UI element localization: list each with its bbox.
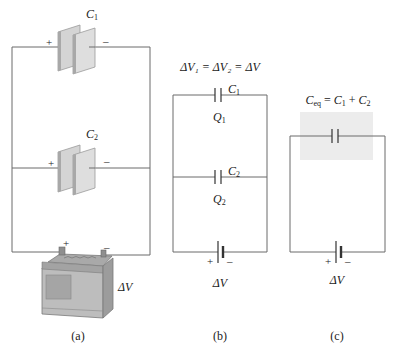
battery-plus-sign-a: +: [63, 237, 69, 249]
c1-minus-sign-a: –: [103, 35, 109, 47]
battery-plus-sign-c: +: [325, 255, 331, 267]
delta-v-label-a: ΔV: [118, 280, 132, 295]
voltage-equation-b: ΔV₁ = ΔV₂ = ΔV: [180, 60, 260, 75]
battery-minus-sign-b: –: [227, 255, 233, 267]
delta-v-label-c: ΔV: [330, 273, 344, 288]
c2-label-b: C2: [228, 164, 240, 179]
c2-minus-sign-a: –: [104, 155, 110, 167]
caption-b: (b): [213, 329, 227, 344]
c2-plus-sign-a: +: [48, 157, 54, 169]
q2-label-b: Q2: [213, 192, 226, 207]
circuit-diagram: [0, 0, 396, 352]
c1-label-b: C1: [228, 82, 240, 97]
capacitor-c2-plates: [58, 145, 95, 195]
delta-v-label-b: ΔV: [213, 276, 227, 291]
battery-plus-sign-b: +: [207, 255, 213, 267]
battery-minus-sign-c: –: [345, 255, 351, 267]
c1-label-a: C1: [86, 7, 98, 22]
q1-label-b: Q1: [213, 110, 226, 125]
c1-plus-sign-a: +: [46, 36, 52, 48]
car-battery-icon: [42, 247, 113, 318]
capacitor-c1-plates: [58, 25, 95, 74]
battery-minus-sign-a: –: [104, 241, 110, 253]
panel-a-circuit: [12, 47, 150, 255]
caption-c: (c): [330, 329, 343, 344]
c2-label-a: C2: [86, 127, 98, 142]
caption-a: (a): [71, 329, 84, 344]
capacitance-equation-c: Ceq = C1 + C2: [305, 93, 370, 108]
